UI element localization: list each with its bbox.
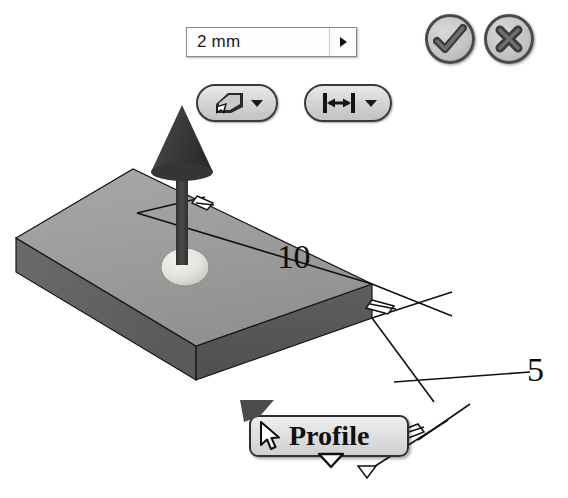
cad-viewport: 2 mm	[0, 0, 568, 498]
chevron-down-icon[interactable]	[365, 100, 377, 107]
cursor-shadow-icon	[240, 400, 280, 426]
extrude-distance-value[interactable]: 2 mm	[187, 32, 329, 52]
tooltip-tail-icon	[316, 452, 346, 470]
extent-button[interactable]	[304, 84, 392, 122]
ok-button[interactable]	[425, 14, 475, 64]
extrude-distance-stepper[interactable]	[329, 28, 356, 56]
chevron-right-icon	[340, 37, 347, 47]
direction-button[interactable]	[196, 84, 278, 122]
dimension-label-width[interactable]: 5	[527, 353, 544, 387]
extrude-direction-icon	[212, 90, 246, 116]
extrude-distance-input[interactable]: 2 mm	[186, 27, 357, 57]
arrow-head-base	[151, 163, 213, 181]
close-x-icon	[493, 23, 525, 55]
dimension-label-length[interactable]: 10	[277, 240, 310, 274]
check-icon	[433, 24, 467, 54]
distance-extent-icon	[320, 90, 360, 116]
cancel-button[interactable]	[484, 14, 534, 64]
bottom-corner-arrow	[358, 466, 376, 478]
profile-tooltip-label: Profile	[289, 422, 369, 450]
chevron-down-icon[interactable]	[251, 100, 263, 107]
